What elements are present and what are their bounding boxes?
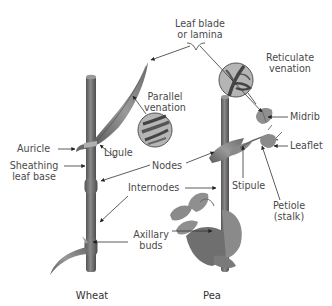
pea-leaflet xyxy=(260,134,276,148)
label-axillary-buds: Axillary buds xyxy=(128,229,174,251)
label-sheathing-line2: leaf base xyxy=(6,171,62,182)
label-ligule: Ligule xyxy=(104,147,133,158)
reticulate-venation-inset xyxy=(219,63,253,97)
wheat-lower-leaf xyxy=(50,247,88,275)
label-leaf-blade-line1: Leaf blade xyxy=(170,18,230,29)
label-petiole-line2: (stalk) xyxy=(266,211,312,222)
label-nodes: Nodes xyxy=(152,160,182,171)
label-leaflet: Leaflet xyxy=(290,140,323,151)
label-sheathing-leaf-base: Sheathing leaf base xyxy=(6,160,62,182)
label-internodes: Internodes xyxy=(128,182,179,193)
label-axillary-line2: buds xyxy=(128,240,174,251)
leaf-structure-diagram: Leaf blade or lamina Reticulate venation… xyxy=(0,0,332,306)
label-parallel-line2: venation xyxy=(135,102,195,113)
label-reticulate-line1: Reticulate xyxy=(260,52,320,63)
label-stipule: Stipule xyxy=(232,180,265,191)
label-parallel-venation: Parallel venation xyxy=(135,91,195,113)
label-petiole-line1: Petiole xyxy=(266,200,312,211)
label-reticulate-venation: Reticulate venation xyxy=(260,52,320,74)
parallel-venation-inset xyxy=(138,113,172,147)
label-petiole: Petiole (stalk) xyxy=(266,200,312,222)
label-parallel-line1: Parallel xyxy=(135,91,195,102)
label-leaf-blade-line2: or lamina xyxy=(170,29,230,40)
label-auricle: Auricle xyxy=(17,143,50,154)
caption-pea: Pea xyxy=(192,290,232,301)
caption-wheat: Wheat xyxy=(62,290,122,301)
label-sheathing-line1: Sheathing xyxy=(6,160,62,171)
label-reticulate-line2: venation xyxy=(260,63,320,74)
label-leaf-blade: Leaf blade or lamina xyxy=(170,18,230,40)
label-midrib: Midrib xyxy=(290,111,320,122)
label-axillary-line1: Axillary xyxy=(128,229,174,240)
